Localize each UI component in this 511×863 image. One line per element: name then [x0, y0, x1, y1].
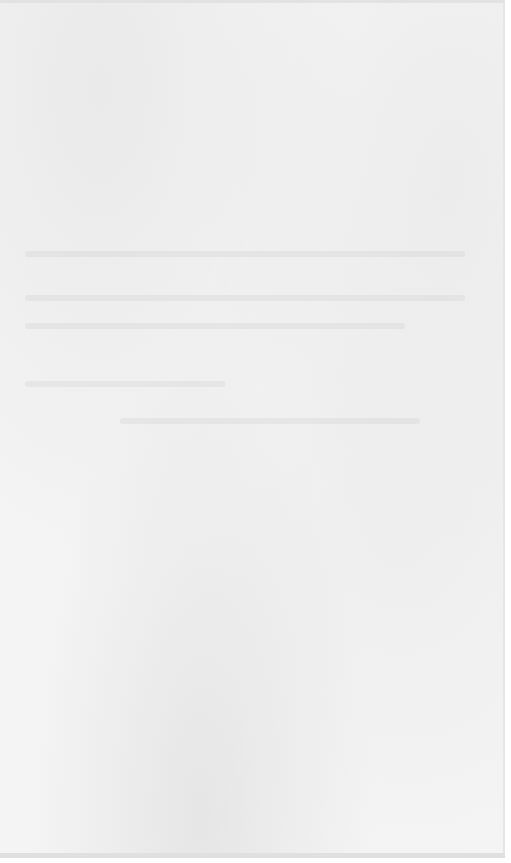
bleed-through-line: [120, 418, 420, 424]
blank-scanned-page: [0, 0, 505, 858]
bleed-through-line: [25, 323, 405, 329]
bleed-through-line: [25, 295, 465, 301]
page-edge: [0, 853, 505, 858]
bleed-through-line: [25, 381, 225, 387]
bleed-through-line: [25, 251, 465, 257]
